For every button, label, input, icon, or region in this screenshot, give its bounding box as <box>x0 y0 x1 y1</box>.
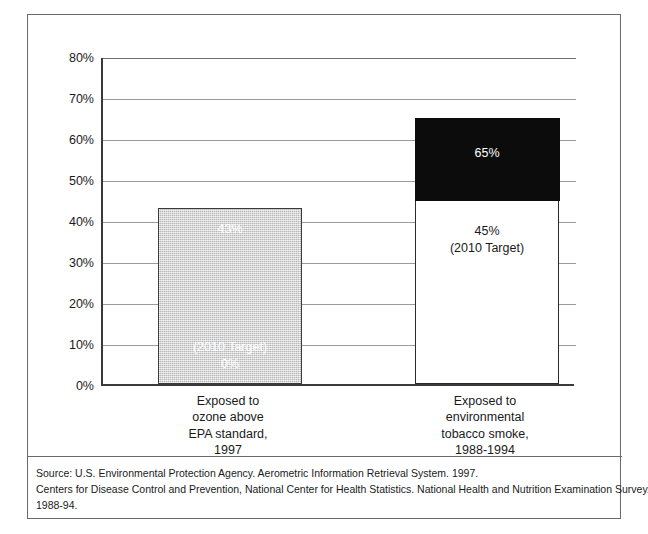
y-tick-label-20: 20% <box>32 298 94 311</box>
bar-environmental-tobacco-smoke[interactable]: 65% 45% (2010 Target) <box>415 118 559 384</box>
footer-divider <box>28 456 622 457</box>
y-tick-label-40: 40% <box>32 216 94 229</box>
figure-frame: 80% 70% 60% 50% 40% 30% 20% 10% 0% 43% <box>27 14 621 519</box>
plot-area: 43% (2010 Target) 0% 65% 45% (2010 Targe… <box>101 58 574 386</box>
gridline-70 <box>103 99 576 100</box>
category-label-ozone-line-1: Exposed to <box>133 393 323 409</box>
bar-ets-target-value: 45% <box>416 223 558 240</box>
bar-ozone-target-caption: (2010 Target) <box>159 339 301 356</box>
bar-ozone-target-value: 0% <box>159 356 301 373</box>
category-label-ozone: Exposed to ozone above EPA standard, 199… <box>133 393 323 458</box>
source-note-line-3: 1988-94. <box>36 498 614 514</box>
category-label-ets-line-3: tobacco smoke, <box>390 426 580 442</box>
category-label-ets: Exposed to environmental tobacco smoke, … <box>390 393 580 458</box>
y-tick-label-50: 50% <box>32 175 94 188</box>
source-note-line-2: Centers for Disease Control and Preventi… <box>36 482 614 498</box>
y-tick-label-30: 30% <box>32 257 94 270</box>
category-label-ets-line-1: Exposed to <box>390 393 580 409</box>
y-tick-label-60: 60% <box>32 134 94 147</box>
source-note: Source: U.S. Environmental Protection Ag… <box>36 466 614 513</box>
x-axis-category-labels: Exposed to ozone above EPA standard, 199… <box>101 393 574 453</box>
gridline-80 <box>103 58 576 59</box>
bar-ets-value-label: 65% <box>416 145 559 162</box>
y-tick-label-10: 10% <box>32 339 94 352</box>
chart-area: 80% 70% 60% 50% 40% 30% 20% 10% 0% 43% <box>28 15 622 445</box>
bar-ets-target-block: 45% (2010 Target) <box>416 223 558 257</box>
category-label-ets-line-2: environmental <box>390 409 580 425</box>
y-axis: 80% 70% 60% 50% 40% 30% 20% 10% 0% <box>28 58 94 386</box>
source-note-line-1: Source: U.S. Environmental Protection Ag… <box>36 466 614 482</box>
y-tick-label-70: 70% <box>32 93 94 106</box>
category-label-ozone-line-3: EPA standard, <box>133 426 323 442</box>
category-label-ozone-line-2: ozone above <box>133 409 323 425</box>
bar-ozone[interactable]: 43% (2010 Target) 0% <box>158 208 302 384</box>
bar-ozone-value-label: 43% <box>159 221 301 238</box>
y-tick-label-80: 80% <box>32 52 94 65</box>
bar-ozone-target-block: (2010 Target) 0% <box>159 339 301 373</box>
y-tick-label-0: 0% <box>32 380 94 393</box>
bar-ets-upper-segment[interactable]: 65% <box>415 118 560 201</box>
bar-ets-target-caption: (2010 Target) <box>416 240 558 257</box>
